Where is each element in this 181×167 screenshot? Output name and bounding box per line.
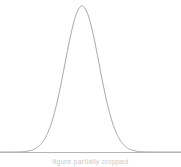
- plot-area: [0, 0, 181, 167]
- bell-curve-figure: figure partially cropped: [0, 0, 181, 167]
- normal-distribution-curve: [0, 6, 181, 152]
